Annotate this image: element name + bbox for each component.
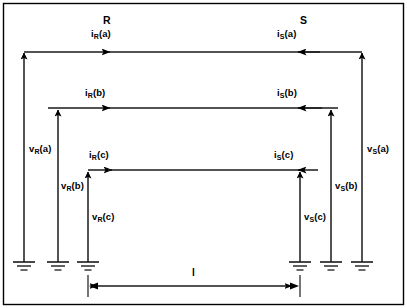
voltage-label-vS-c-sub: S xyxy=(309,216,314,223)
length-dimension xyxy=(88,275,300,297)
current-label-iR-a-arg: (a) xyxy=(99,28,111,39)
voltage-verticals-right xyxy=(300,53,362,262)
current-label-iS-c-arg: (c) xyxy=(282,149,294,160)
current-label-iS-a-sub: S xyxy=(280,33,285,40)
voltage-label-vR-c-sub: R xyxy=(97,216,102,223)
voltage-label-vR-c: vR(c) xyxy=(92,212,114,222)
current-label-iS-b-sub: S xyxy=(280,92,285,99)
ground-symbol-vS-c xyxy=(289,262,311,270)
voltage-label-vR-a: vR(a) xyxy=(29,144,51,154)
voltage-label-vS-c-arg: (c) xyxy=(314,211,326,222)
ground-symbol-vR-a xyxy=(13,262,35,270)
voltage-label-vR-b-arg: (b) xyxy=(72,180,84,191)
voltage-label-vR-a-sub: R xyxy=(34,148,39,155)
voltage-label-vS-b-arg: (b) xyxy=(345,180,357,191)
current-label-iR-c-sub: R xyxy=(92,154,97,161)
voltage-label-vR-b-sub: R xyxy=(66,185,71,192)
current-label-iS-a-arg: (a) xyxy=(285,28,297,39)
voltage-label-vS-a: vS(a) xyxy=(367,144,389,154)
voltage-label-vS-a-sub: S xyxy=(372,148,377,155)
current-label-iR-b-sub: R xyxy=(88,92,93,99)
current-label-iS-a: iS(a) xyxy=(277,29,296,39)
transmission-line-diagram: R S iR(a) iR(b) iR(c) iS(a) iS(b) iS(c) … xyxy=(0,0,407,308)
voltage-verticals-left xyxy=(24,53,88,262)
ground-symbol-vS-a xyxy=(351,262,373,270)
dimension-arrow-right xyxy=(290,283,299,290)
current-label-iR-b: iR(b) xyxy=(85,88,105,98)
voltage-label-vS-a-arg: (a) xyxy=(377,143,389,154)
ground-symbol-vR-b xyxy=(47,262,69,270)
voltage-label-vR-c-arg: (c) xyxy=(103,211,115,222)
current-label-iR-b-arg: (b) xyxy=(93,87,105,98)
terminal-label-S: S xyxy=(300,15,307,26)
voltage-label-vR-a-arg: (a) xyxy=(40,143,52,154)
voltage-label-vS-b-sub: S xyxy=(340,185,345,192)
current-label-iS-c-sub: S xyxy=(277,154,282,161)
ground-symbol-vS-b xyxy=(320,262,342,270)
dimension-label-length: l xyxy=(192,268,195,278)
diagram-canvas xyxy=(0,0,407,308)
terminal-label-R: R xyxy=(103,15,111,26)
current-label-iR-a-sub: R xyxy=(94,33,99,40)
voltage-label-vR-b: vR(b) xyxy=(61,181,84,191)
dimension-arrow-left xyxy=(89,283,98,290)
current-label-iR-c: iR(c) xyxy=(89,150,109,160)
voltage-label-vS-c: vS(c) xyxy=(304,212,326,222)
current-label-iS-b: iS(b) xyxy=(277,88,297,98)
figure-border xyxy=(4,4,404,305)
current-label-iS-b-arg: (b) xyxy=(285,87,297,98)
voltage-label-vS-b: vS(b) xyxy=(335,181,358,191)
current-label-iR-c-arg: (c) xyxy=(97,149,109,160)
ground-symbol-vR-c xyxy=(77,262,99,270)
current-label-iR-a: iR(a) xyxy=(91,29,111,39)
current-label-iS-c: iS(c) xyxy=(274,150,293,160)
